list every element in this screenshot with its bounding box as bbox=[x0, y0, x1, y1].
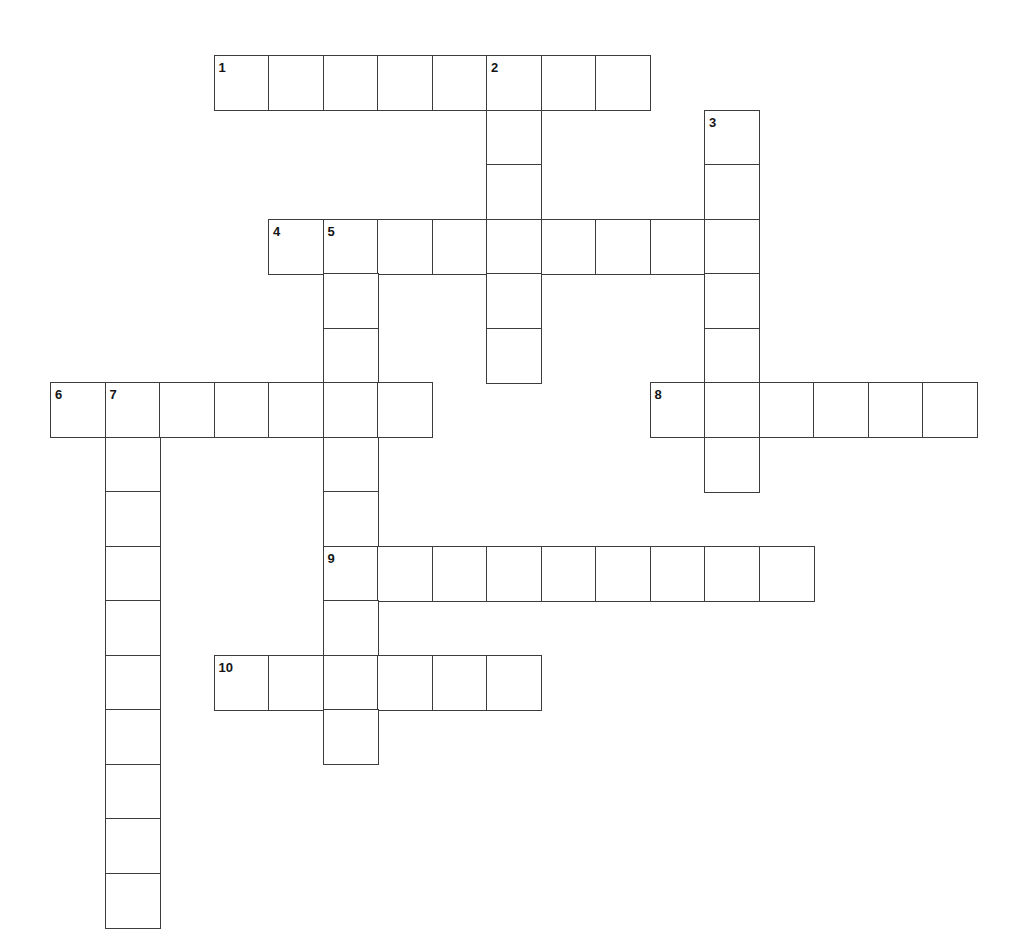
crossword-cell[interactable] bbox=[486, 55, 542, 111]
crossword-cell[interactable] bbox=[105, 546, 161, 602]
crossword-puzzle: 12345678910 bbox=[0, 0, 1011, 942]
crossword-cell[interactable] bbox=[323, 328, 379, 384]
crossword-cell[interactable] bbox=[268, 655, 324, 711]
crossword-cell[interactable] bbox=[323, 600, 379, 656]
crossword-cell[interactable] bbox=[541, 546, 597, 602]
crossword-cell[interactable] bbox=[486, 546, 542, 602]
crossword-cell[interactable] bbox=[323, 382, 379, 438]
crossword-cell[interactable] bbox=[486, 273, 542, 329]
crossword-cell[interactable] bbox=[50, 382, 106, 438]
crossword-cell[interactable] bbox=[105, 764, 161, 820]
crossword-cell[interactable] bbox=[105, 709, 161, 765]
crossword-cell[interactable] bbox=[432, 546, 488, 602]
crossword-cell[interactable] bbox=[214, 382, 270, 438]
crossword-cell[interactable] bbox=[704, 110, 760, 166]
crossword-cell[interactable] bbox=[486, 655, 542, 711]
crossword-cell[interactable] bbox=[105, 873, 161, 929]
crossword-cell[interactable] bbox=[377, 655, 433, 711]
crossword-cell[interactable] bbox=[105, 600, 161, 656]
crossword-cell[interactable] bbox=[759, 546, 815, 602]
crossword-cell[interactable] bbox=[704, 382, 760, 438]
crossword-cell[interactable] bbox=[650, 546, 706, 602]
crossword-cell[interactable] bbox=[323, 55, 379, 111]
crossword-cell[interactable] bbox=[759, 382, 815, 438]
crossword-cell[interactable] bbox=[486, 328, 542, 384]
crossword-cell[interactable] bbox=[432, 655, 488, 711]
crossword-cell[interactable] bbox=[813, 382, 869, 438]
crossword-cell[interactable] bbox=[377, 219, 433, 275]
crossword-cell[interactable] bbox=[704, 219, 760, 275]
crossword-cell[interactable] bbox=[323, 709, 379, 765]
crossword-cell[interactable] bbox=[214, 655, 270, 711]
crossword-cell[interactable] bbox=[105, 491, 161, 547]
crossword-cell[interactable] bbox=[868, 382, 924, 438]
crossword-cell[interactable] bbox=[323, 491, 379, 547]
crossword-cell[interactable] bbox=[650, 219, 706, 275]
crossword-cell[interactable] bbox=[105, 437, 161, 493]
crossword-cell[interactable] bbox=[323, 219, 379, 275]
crossword-cell[interactable] bbox=[214, 55, 270, 111]
crossword-cell[interactable] bbox=[704, 164, 760, 220]
crossword-cell[interactable] bbox=[105, 382, 161, 438]
crossword-cell[interactable] bbox=[377, 55, 433, 111]
crossword-cell[interactable] bbox=[541, 219, 597, 275]
crossword-cell[interactable] bbox=[704, 273, 760, 329]
crossword-cell[interactable] bbox=[377, 546, 433, 602]
crossword-cell[interactable] bbox=[323, 655, 379, 711]
crossword-cell[interactable] bbox=[922, 382, 978, 438]
crossword-cell[interactable] bbox=[595, 219, 651, 275]
crossword-cell[interactable] bbox=[486, 164, 542, 220]
crossword-cell[interactable] bbox=[377, 382, 433, 438]
crossword-cell[interactable] bbox=[105, 655, 161, 711]
crossword-cell[interactable] bbox=[268, 219, 324, 275]
crossword-cell[interactable] bbox=[650, 382, 706, 438]
crossword-cell[interactable] bbox=[541, 55, 597, 111]
crossword-cell[interactable] bbox=[704, 546, 760, 602]
crossword-cell[interactable] bbox=[323, 273, 379, 329]
crossword-cell[interactable] bbox=[486, 219, 542, 275]
crossword-cell[interactable] bbox=[323, 437, 379, 493]
crossword-cell[interactable] bbox=[704, 328, 760, 384]
crossword-cell[interactable] bbox=[105, 818, 161, 874]
crossword-cell[interactable] bbox=[595, 55, 651, 111]
crossword-cell[interactable] bbox=[432, 55, 488, 111]
crossword-cell[interactable] bbox=[323, 546, 379, 602]
crossword-cell[interactable] bbox=[704, 437, 760, 493]
crossword-grid[interactable]: 12345678910 bbox=[0, 0, 1011, 942]
crossword-cell[interactable] bbox=[268, 382, 324, 438]
crossword-cell[interactable] bbox=[595, 546, 651, 602]
crossword-cell[interactable] bbox=[432, 219, 488, 275]
crossword-cell[interactable] bbox=[268, 55, 324, 111]
crossword-cell[interactable] bbox=[486, 110, 542, 166]
crossword-cell[interactable] bbox=[159, 382, 215, 438]
